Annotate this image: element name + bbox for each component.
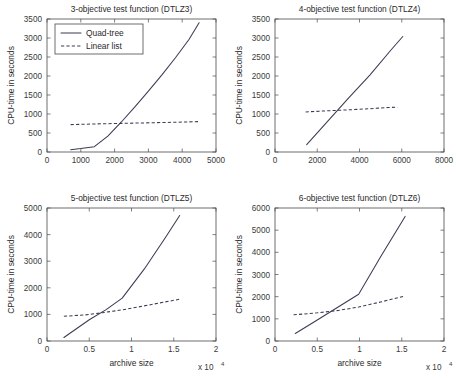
y-tick-label: 1000 <box>252 315 271 324</box>
figure-canvas: 0100020003000400050000500100015002000250… <box>0 0 456 378</box>
x-tick-label: 0.5 <box>84 345 96 354</box>
x-tick-label: 0 <box>45 156 50 165</box>
x-tick-label: 8000 <box>435 156 454 165</box>
x-tick-label: 4000 <box>350 156 369 165</box>
x-tick-label: 6000 <box>393 156 412 165</box>
y-tick-label: 3000 <box>24 257 43 266</box>
subplot-dtlz5: 00.511.520100020003000400050005-objectiv… <box>0 189 228 378</box>
legend-label: Linear list <box>86 41 123 51</box>
x-tick-label: 1000 <box>72 156 91 165</box>
y-tick-label: 500 <box>256 129 270 138</box>
y-tick-label: 1500 <box>24 91 43 100</box>
y-tick-label: 3500 <box>24 15 43 24</box>
y-tick-label: 2500 <box>24 53 43 62</box>
series-dashed <box>71 122 199 125</box>
y-tick-label: 1000 <box>252 110 271 119</box>
series-solid <box>307 36 403 144</box>
subplot-dtlz4: 0200040006000800005001000150020002500300… <box>228 0 456 189</box>
x-tick-label: 1 <box>357 345 362 354</box>
y-tick-label: 500 <box>28 129 42 138</box>
y-tick-label: 3000 <box>252 271 271 280</box>
x-tick-label: 2 <box>214 345 219 354</box>
y-tick-label: 2500 <box>252 53 271 62</box>
y-tick-label: 0 <box>265 337 270 346</box>
x-axis-exponent: x 10 <box>426 363 442 372</box>
y-axis-label: CPU-time in seconds <box>234 46 244 125</box>
x-tick-label: 2000 <box>308 156 327 165</box>
x-tick-label: 1 <box>129 345 134 354</box>
y-tick-label: 3500 <box>252 15 271 24</box>
x-axis-exponent: x 10 <box>198 363 214 372</box>
x-tick-label: 5000 <box>207 156 226 165</box>
subplot-title: 4-objective test function (DTLZ4) <box>299 4 421 14</box>
x-tick-label: 2 <box>442 345 447 354</box>
x-axis-label: archive size <box>109 358 154 368</box>
x-axis-label: archive size <box>337 358 382 368</box>
y-tick-label: 0 <box>37 337 42 346</box>
plot-frame <box>47 208 216 341</box>
subplot-title: 3-objective test function (DTLZ3) <box>71 4 193 14</box>
subplot-dtlz6: 00.511.5201000200030004000500060006-obje… <box>228 189 456 378</box>
y-tick-label: 1000 <box>24 110 43 119</box>
y-tick-label: 2000 <box>252 72 271 81</box>
series-solid <box>64 215 180 337</box>
y-tick-label: 5000 <box>252 226 271 235</box>
y-tick-label: 3000 <box>24 34 43 43</box>
subplot-dtlz3: 0100020003000400050000500100015002000250… <box>0 0 228 189</box>
x-tick-label: 4000 <box>173 156 192 165</box>
x-axis-exponent-power: 4 <box>449 361 453 367</box>
subplot-title: 5-objective test function (DTLZ5) <box>71 193 193 203</box>
y-tick-label: 2000 <box>24 284 43 293</box>
x-tick-label: 0 <box>273 345 278 354</box>
y-tick-label: 2000 <box>24 72 43 81</box>
x-axis-exponent-power: 4 <box>221 361 225 367</box>
legend-label: Quad-tree <box>86 28 124 38</box>
x-tick-label: 0 <box>273 156 278 165</box>
y-tick-label: 0 <box>37 148 42 157</box>
x-tick-label: 2000 <box>105 156 124 165</box>
y-axis-label: CPU-time in seconds <box>6 46 16 125</box>
y-tick-label: 4000 <box>24 231 43 240</box>
x-tick-label: 0.5 <box>312 345 324 354</box>
x-tick-label: 1.5 <box>396 345 408 354</box>
series-solid <box>295 216 405 333</box>
subplot-title: 6-objective test function (DTLZ6) <box>299 193 421 203</box>
plot-frame <box>275 208 444 341</box>
y-tick-label: 2000 <box>252 293 271 302</box>
y-axis-label: CPU-time in seconds <box>6 235 16 314</box>
x-tick-label: 1.5 <box>168 345 180 354</box>
y-axis-label: CPU-time in seconds <box>234 235 244 314</box>
y-tick-label: 4000 <box>252 248 271 257</box>
series-dashed <box>64 299 180 316</box>
y-tick-label: 5000 <box>24 204 43 213</box>
y-tick-label: 0 <box>265 148 270 157</box>
y-tick-label: 1500 <box>252 91 271 100</box>
series-dashed <box>294 296 406 315</box>
y-tick-label: 6000 <box>252 204 271 213</box>
y-tick-label: 3000 <box>252 34 271 43</box>
y-tick-label: 1000 <box>24 310 43 319</box>
x-tick-label: 3000 <box>139 156 158 165</box>
legend: Quad-treeLinear list <box>55 24 143 54</box>
x-tick-label: 0 <box>45 345 50 354</box>
series-dashed <box>306 107 398 112</box>
